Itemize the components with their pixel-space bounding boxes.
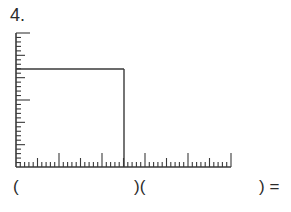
- product-equals: ) =: [259, 177, 279, 197]
- factor-separator-parens: )(: [134, 177, 145, 197]
- area-model-figure: [0, 0, 291, 212]
- factor-one-open-paren: (: [13, 177, 19, 197]
- area-rectangle: [16, 69, 124, 167]
- vertical-ruler: [16, 33, 30, 167]
